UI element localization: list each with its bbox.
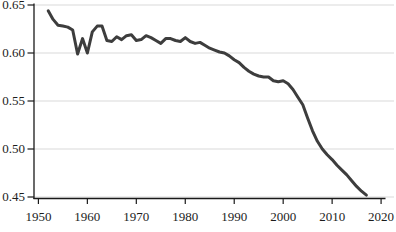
x-tick-label: 2020: [368, 209, 394, 224]
x-tick-label: 2000: [270, 209, 296, 224]
data-series-line: [48, 11, 366, 195]
y-tick-label: 0.60: [2, 45, 25, 60]
x-tick-label: 2010: [319, 209, 345, 224]
x-tick-label: 1950: [25, 209, 51, 224]
x-tick-label: 1980: [172, 209, 198, 224]
y-tick-label: 0.55: [2, 93, 25, 108]
y-tick-label: 0.65: [2, 0, 25, 12]
line-chart-figure: 0.450.500.550.600.6519501960197019801990…: [0, 0, 396, 232]
line-chart-svg: 0.450.500.550.600.6519501960197019801990…: [0, 0, 396, 232]
x-tick-label: 1960: [74, 209, 100, 224]
y-tick-label: 0.50: [2, 141, 25, 156]
x-tick-label: 1990: [221, 209, 247, 224]
x-tick-label: 1970: [123, 209, 149, 224]
y-tick-label: 0.45: [2, 189, 25, 204]
